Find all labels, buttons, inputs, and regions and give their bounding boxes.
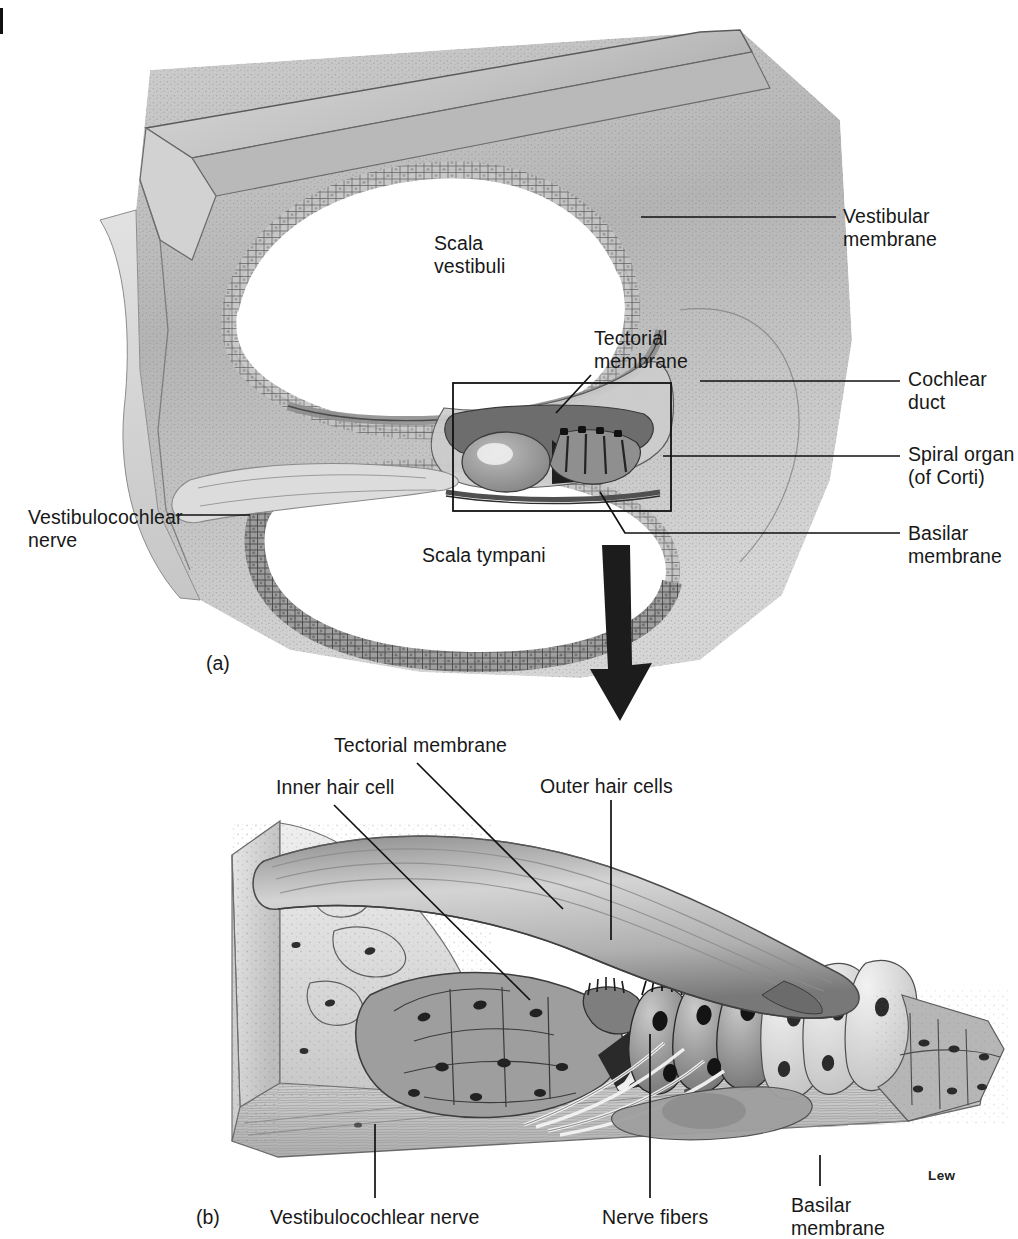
label-outer-hair-cells: Outer hair cells (540, 775, 673, 798)
label-nerve-fibers: Nerve fibers (602, 1206, 708, 1229)
label-inner-hair-cell: Inner hair cell (276, 776, 395, 799)
label-tectorial-membrane-b: Tectorial membrane (334, 734, 507, 757)
label-vestibular-membrane: Vestibular membrane (843, 205, 937, 251)
label-scala-tympani: Scala tympani (422, 544, 546, 567)
cochlea-figure: Scala vestibuli Tectorial membrane Scala… (0, 0, 1018, 1239)
leader-inner-hair-cell (334, 805, 530, 1000)
panel-id-a: (a) (206, 652, 230, 675)
leader-tectorial-membrane (556, 375, 591, 413)
leader-basilar-membrane (600, 492, 900, 533)
label-basilar-membrane-b: Basilar membrane (791, 1194, 885, 1239)
artist-signature: Lew (928, 1168, 955, 1183)
label-vestibulocochlear-nerve-b: Vestibulocochlear nerve (270, 1206, 479, 1229)
label-vestibulocochlear-nerve-a: Vestibulocochlear nerve (28, 506, 183, 552)
label-cochlear-duct: Cochlear duct (908, 368, 987, 414)
panel-id-b: (b) (196, 1206, 220, 1229)
label-spiral-organ-of-corti: Spiral organ (of Corti) (908, 443, 1014, 489)
panel-b-leader-lines (0, 700, 1018, 1239)
panel-a-leader-lines (0, 0, 1018, 720)
label-basilar-membrane-a: Basilar membrane (908, 522, 1002, 568)
label-scala-vestibuli: Scala vestibuli (434, 232, 505, 278)
label-tectorial-membrane-a: Tectorial membrane (594, 327, 688, 373)
